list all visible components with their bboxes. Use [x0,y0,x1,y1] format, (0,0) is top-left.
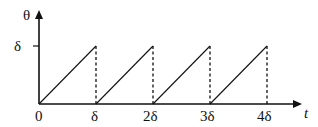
x-tick-label-3: 3δ [200,109,215,124]
y-axis-label: θ [23,8,30,23]
y-tick-label: δ [14,39,21,54]
x-tick-label-0: 0 [35,109,43,124]
x-axis-label: t [304,106,308,121]
x-tick-label-4: 4δ [257,109,272,124]
y-axis-arrow-icon [35,10,43,19]
x-axis-arrow-icon [293,100,302,108]
x-tick-label-2: 2δ [143,109,158,124]
x-tick-label-1: δ [91,109,98,124]
